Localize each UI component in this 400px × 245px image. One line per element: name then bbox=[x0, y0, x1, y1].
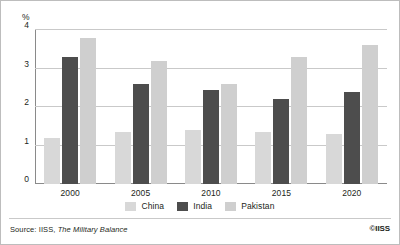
legend-swatch-icon bbox=[125, 202, 136, 211]
bar-india-2010 bbox=[203, 90, 219, 184]
bar-india-2000 bbox=[62, 57, 78, 184]
y-tick-label: 2 bbox=[24, 97, 29, 107]
x-tick-label: 2005 bbox=[131, 188, 150, 198]
x-axis: 20002005201020152020 bbox=[35, 186, 387, 200]
bar-china-2015 bbox=[255, 132, 271, 184]
bar-pakistan-2010 bbox=[221, 84, 237, 184]
y-tick-label: 1 bbox=[24, 136, 29, 146]
bar-china-2005 bbox=[115, 132, 131, 184]
bar-india-2005 bbox=[133, 84, 149, 184]
x-tick-label: 2010 bbox=[201, 188, 220, 198]
bar-china-2000 bbox=[44, 138, 60, 184]
source-prefix: Source: IISS, bbox=[10, 225, 58, 234]
legend-label: India bbox=[193, 201, 212, 211]
source-note: Source: IISS, The Military Balance bbox=[10, 225, 128, 234]
bar-group bbox=[317, 30, 387, 184]
bar-china-2020 bbox=[326, 134, 342, 184]
y-tick-label: 4 bbox=[24, 20, 29, 30]
legend-item-india[interactable]: India bbox=[177, 201, 212, 211]
x-tick-label: 2000 bbox=[61, 188, 80, 198]
bar-india-2015 bbox=[273, 99, 289, 184]
bar-china-2010 bbox=[185, 130, 201, 184]
bar-pakistan-2015 bbox=[291, 57, 307, 184]
legend-label: Pakistan bbox=[241, 201, 274, 211]
bar-group bbox=[246, 30, 316, 184]
legend-swatch-icon bbox=[177, 202, 188, 211]
chart-figure: % 01234 20002005201020152020 ChinaIndiaP… bbox=[0, 0, 400, 245]
bar-india-2020 bbox=[344, 92, 360, 184]
bar-pakistan-2000 bbox=[80, 38, 96, 184]
bar-pakistan-2020 bbox=[362, 45, 378, 184]
legend-label: China bbox=[141, 201, 164, 211]
y-tick-label: 3 bbox=[24, 59, 29, 69]
bar-group bbox=[35, 30, 105, 184]
bar-group bbox=[105, 30, 175, 184]
chart-legend: ChinaIndiaPakistan bbox=[1, 201, 399, 211]
y-axis: 01234 bbox=[1, 25, 35, 185]
plot-area bbox=[35, 30, 387, 184]
footer-divider bbox=[9, 218, 391, 219]
bar-pakistan-2005 bbox=[151, 61, 167, 184]
bar-group bbox=[176, 30, 246, 184]
x-tick-label: 2015 bbox=[272, 188, 291, 198]
y-tick-label: 0 bbox=[24, 174, 29, 184]
x-tick-label: 2020 bbox=[342, 188, 361, 198]
legend-item-pakistan[interactable]: Pakistan bbox=[225, 201, 274, 211]
source-publication: The Military Balance bbox=[58, 225, 128, 234]
legend-item-china[interactable]: China bbox=[125, 201, 164, 211]
copyright-label: ©IISS bbox=[369, 224, 390, 233]
legend-swatch-icon bbox=[225, 202, 236, 211]
